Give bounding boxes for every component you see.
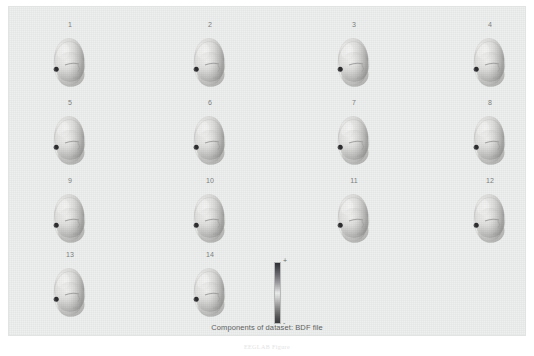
head-model-render bbox=[466, 31, 514, 95]
head-model-render bbox=[46, 109, 94, 173]
component-cell-6[interactable]: 6 bbox=[167, 99, 253, 177]
scalp-topography-head[interactable] bbox=[466, 109, 514, 173]
component-number-label: 2 bbox=[167, 21, 253, 29]
head-model-render bbox=[186, 109, 234, 173]
component-cell-5[interactable]: 5 bbox=[27, 99, 113, 177]
scalp-topography-head[interactable] bbox=[186, 31, 234, 95]
below-figure-text: EEGLAB Figure bbox=[0, 344, 534, 350]
scalp-topography-head[interactable] bbox=[466, 31, 514, 95]
scalp-topography-head[interactable] bbox=[46, 187, 94, 251]
component-number-label: 10 bbox=[167, 177, 253, 185]
component-number-label: 14 bbox=[167, 251, 253, 259]
component-number-label: 5 bbox=[27, 99, 113, 107]
component-topography-grid: 1 bbox=[8, 6, 526, 336]
head-model-render bbox=[186, 31, 234, 95]
colorbar-max-label: + bbox=[283, 257, 287, 264]
scalp-topography-head[interactable] bbox=[46, 31, 94, 95]
scalp-topography-head[interactable] bbox=[46, 109, 94, 173]
component-cell-12[interactable]: 12 bbox=[447, 177, 526, 255]
component-number-label: 4 bbox=[447, 21, 526, 29]
scalp-topography-head[interactable] bbox=[186, 261, 234, 325]
scalp-topography-head[interactable] bbox=[46, 261, 94, 325]
head-model-render bbox=[46, 261, 94, 325]
component-cell-13[interactable]: 13 bbox=[27, 251, 113, 329]
head-model-render bbox=[186, 187, 234, 251]
scalp-topography-head[interactable] bbox=[466, 187, 514, 251]
component-cell-1[interactable]: 1 bbox=[27, 21, 113, 99]
component-number-label: 12 bbox=[447, 177, 526, 185]
component-number-label: 9 bbox=[27, 177, 113, 185]
component-cell-8[interactable]: 8 bbox=[447, 99, 526, 177]
head-model-render bbox=[330, 187, 378, 251]
component-cell-10[interactable]: 10 bbox=[167, 177, 253, 255]
colorbar: + - bbox=[261, 255, 301, 331]
scalp-topography-head[interactable] bbox=[186, 109, 234, 173]
head-model-render bbox=[46, 187, 94, 251]
component-number-label: 13 bbox=[27, 251, 113, 259]
head-model-render bbox=[46, 31, 94, 95]
component-cell-7[interactable]: 7 bbox=[311, 99, 397, 177]
component-cell-2[interactable]: 2 bbox=[167, 21, 253, 99]
head-model-render bbox=[186, 261, 234, 325]
component-number-label: 1 bbox=[27, 21, 113, 29]
component-cell-4[interactable]: 4 bbox=[447, 21, 526, 99]
scalp-topography-head[interactable] bbox=[186, 187, 234, 251]
scalp-topography-head[interactable] bbox=[330, 109, 378, 173]
colorbar-gradient bbox=[274, 262, 281, 324]
figure-caption: Components of dataset: BDF file bbox=[9, 323, 525, 332]
eeglab-figure-window: 1 bbox=[0, 0, 534, 340]
component-number-label: 8 bbox=[447, 99, 526, 107]
component-number-label: 3 bbox=[311, 21, 397, 29]
component-number-label: 11 bbox=[311, 177, 397, 185]
scalp-topography-head[interactable] bbox=[330, 187, 378, 251]
component-number-label: 7 bbox=[311, 99, 397, 107]
component-cell-3[interactable]: 3 bbox=[311, 21, 397, 99]
head-model-render bbox=[466, 109, 514, 173]
head-model-render bbox=[330, 31, 378, 95]
component-number-label: 6 bbox=[167, 99, 253, 107]
scalp-topography-head[interactable] bbox=[330, 31, 378, 95]
head-model-render bbox=[466, 187, 514, 251]
head-model-render bbox=[330, 109, 378, 173]
component-cell-11[interactable]: 11 bbox=[311, 177, 397, 255]
component-cell-14[interactable]: 14 bbox=[167, 251, 253, 329]
component-cell-9[interactable]: 9 bbox=[27, 177, 113, 255]
